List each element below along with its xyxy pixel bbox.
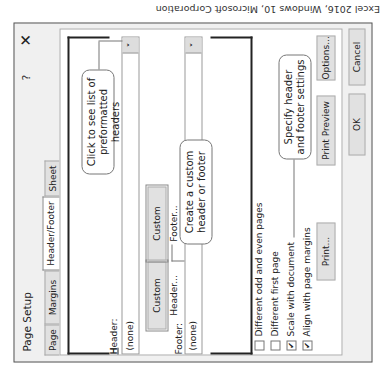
checkbox-label: Different first page bbox=[269, 251, 279, 336]
footer-value: (none) bbox=[187, 321, 197, 350]
tab-header-footer[interactable]: Header/Footer bbox=[42, 196, 60, 270]
header-dropdown[interactable]: (none) ˅ bbox=[121, 36, 139, 354]
chevron-down-icon[interactable]: ˅ bbox=[122, 37, 138, 53]
callout-custom: Create a custom header or footer bbox=[179, 139, 212, 244]
tab-sheet[interactable]: Sheet bbox=[44, 160, 59, 196]
custom-footer-button[interactable]: Custom Footer... bbox=[147, 186, 166, 260]
checkbox-different-first-page[interactable] bbox=[270, 340, 280, 350]
page-setup-dialog: Page Setup ? ✕ Page Margins Header/Foote… bbox=[13, 22, 372, 362]
checkbox-scale-with-document[interactable]: ✔ bbox=[286, 340, 296, 350]
footer-label: Footer: bbox=[173, 322, 183, 354]
checkbox-label: Different odd and even pages bbox=[253, 202, 263, 336]
checkbox-align-with-margins[interactable]: ✔ bbox=[302, 340, 312, 350]
custom-header-button[interactable]: Custom Header... bbox=[147, 261, 166, 329]
callout-connector bbox=[171, 244, 172, 261]
checkbox-different-odd-even[interactable] bbox=[254, 340, 264, 350]
header-label-text: Header: bbox=[108, 318, 118, 354]
chevron-down-icon[interactable]: ˅ bbox=[185, 37, 201, 53]
callout-connector bbox=[98, 40, 122, 41]
callout-settings: Specify header and footer settings bbox=[278, 54, 311, 159]
header-label: HHeader: bbox=[108, 318, 118, 354]
callout-connector bbox=[98, 41, 99, 69]
help-icon[interactable]: ? bbox=[19, 74, 32, 80]
checkbox-label: Scale with document bbox=[285, 242, 295, 336]
print-preview-button[interactable]: Print Preview bbox=[316, 95, 335, 165]
callout-headers-list: Click to see list of preformatted header… bbox=[81, 69, 114, 174]
checkbox-label: Align with page margins bbox=[301, 227, 311, 336]
tab-margins[interactable]: Margins bbox=[44, 270, 59, 324]
print-button[interactable]: Print... bbox=[316, 222, 335, 280]
callout-connector bbox=[171, 260, 184, 261]
image-caption: Excel 2016, Windows 10, Microsoft Corpor… bbox=[196, 2, 380, 16]
close-icon[interactable]: ✕ bbox=[16, 33, 34, 46]
options-button[interactable]: Options... bbox=[316, 35, 335, 80]
ok-button[interactable]: OK bbox=[348, 93, 365, 155]
cancel-button[interactable]: Cancel bbox=[348, 28, 365, 85]
callout-connector bbox=[293, 159, 294, 237]
dialog-title: Page Setup bbox=[20, 292, 32, 351]
tab-page[interactable]: Page bbox=[44, 324, 59, 355]
header-value: (none) bbox=[124, 321, 134, 350]
footer-preview bbox=[210, 36, 252, 354]
